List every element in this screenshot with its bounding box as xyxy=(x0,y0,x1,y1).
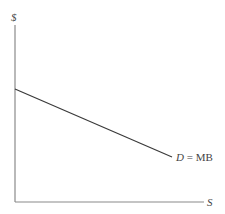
demand-eq: = MB xyxy=(184,151,213,163)
y-axis-label: $ xyxy=(11,11,17,23)
demand-curve-line xyxy=(15,89,172,157)
demand-curve-label: D = MB xyxy=(175,151,213,163)
demand-var: D xyxy=(175,151,184,163)
x-axis-label: S xyxy=(207,196,213,208)
chart: $ S D = MB xyxy=(0,0,225,214)
